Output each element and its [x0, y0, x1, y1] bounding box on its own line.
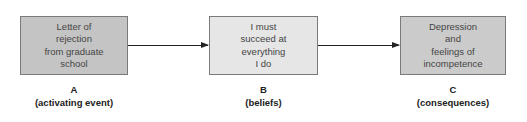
caption-a-letter: A	[20, 83, 128, 96]
caption-c-text: (consequences)	[400, 96, 506, 109]
node-c-line-3: feelings of	[423, 46, 482, 59]
node-c-line-2: and	[423, 33, 482, 46]
node-c-line-4: incompetence	[423, 58, 482, 71]
node-a-line-3: from graduate	[44, 46, 103, 59]
node-activating-event: Letter of rejection from graduate school	[20, 16, 128, 75]
node-consequences: Depression and feelings of incompetence	[400, 16, 506, 75]
caption-c-letter: C	[400, 83, 506, 96]
caption-a-text: (activating event)	[20, 96, 128, 109]
node-a-line-2: rejection	[44, 33, 103, 46]
caption-c: C (consequences)	[400, 83, 506, 109]
caption-b: B (beliefs)	[209, 83, 318, 109]
node-a-line-4: school	[44, 58, 103, 71]
node-b-line-2: succeed at	[241, 33, 287, 46]
arrow-b-to-c	[318, 45, 399, 46]
node-c-line-1: Depression	[423, 21, 482, 34]
arrow-a-to-b	[128, 45, 208, 46]
caption-b-letter: B	[209, 83, 318, 96]
node-a-line-1: Letter of	[44, 21, 103, 34]
caption-b-text: (beliefs)	[209, 96, 318, 109]
node-b-line-1: I must	[241, 21, 287, 34]
caption-a: A (activating event)	[20, 83, 128, 109]
node-beliefs: I must succeed at everything I do	[209, 16, 318, 75]
node-b-line-3: everything	[241, 46, 287, 59]
node-b-line-4: I do	[241, 58, 287, 71]
